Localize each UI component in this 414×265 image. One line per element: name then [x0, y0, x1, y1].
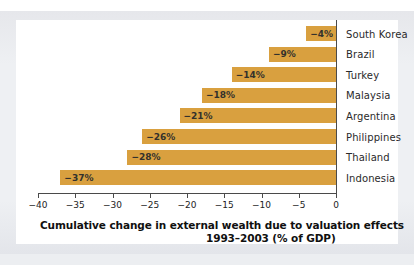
x-axis-tick-label: −15 — [215, 200, 234, 210]
x-axis-tick-label: −30 — [103, 200, 122, 210]
bar-chart-plot-area: −4%South Korea−9%Brazil−14%Turkey−18%Mal… — [16, 20, 398, 196]
bar-row: −14%Turkey — [16, 67, 398, 82]
x-axis-tick — [224, 194, 225, 198]
x-axis-tick-label: −5 — [292, 200, 305, 210]
bar-brazil: −9% — [269, 47, 336, 62]
bar-row: −26%Philippines — [16, 129, 398, 144]
x-axis-tick — [187, 194, 188, 198]
category-label-thailand: Thailand — [346, 152, 390, 163]
y-axis-zero-line — [336, 20, 337, 193]
bar-row: −9%Brazil — [16, 47, 398, 62]
x-axis-tick — [336, 194, 337, 198]
x-axis-tick — [299, 194, 300, 198]
chart-caption-line2: 1993–2003 (% of GDP) — [206, 232, 336, 244]
x-axis-tick — [75, 194, 76, 198]
x-axis-tick-label: −10 — [252, 200, 271, 210]
chart-page: −4%South Korea−9%Brazil−14%Turkey−18%Mal… — [0, 0, 414, 265]
bar-indonesia: −37% — [60, 170, 336, 185]
x-axis-tick-label: 0 — [333, 200, 339, 210]
x-axis-tick-label: −20 — [178, 200, 197, 210]
bar-value-label: −28% — [131, 152, 160, 162]
bar-value-label: −26% — [146, 132, 175, 142]
bar-argentina: −21% — [180, 108, 336, 123]
bar-malaysia: −18% — [202, 88, 336, 103]
x-axis-tick — [262, 194, 263, 198]
bar-thailand: −28% — [127, 150, 336, 165]
x-axis-tick-label: −25 — [140, 200, 159, 210]
category-label-malaysia: Malaysia — [346, 90, 391, 101]
scan-bottom-band — [0, 254, 414, 265]
bar-row: −4%South Korea — [16, 26, 398, 41]
bar-value-label: −18% — [206, 90, 235, 100]
category-label-philippines: Philippines — [346, 131, 401, 142]
bar-turkey: −14% — [232, 67, 336, 82]
x-axis-tick — [150, 194, 151, 198]
bar-row: −37%Indonesia — [16, 170, 398, 185]
x-axis-tick-label: −35 — [66, 200, 85, 210]
bar-philippines: −26% — [142, 129, 336, 144]
category-label-turkey: Turkey — [346, 69, 379, 80]
chart-caption-line1: Cumulative change in external wealth due… — [40, 219, 404, 231]
bar-value-label: −37% — [64, 173, 93, 183]
bar-row: −28%Thailand — [16, 150, 398, 165]
x-axis-tick — [38, 194, 39, 198]
bar-value-label: −9% — [273, 49, 296, 59]
bar-row: −21%Argentina — [16, 108, 398, 123]
category-label-argentina: Argentina — [346, 110, 396, 121]
bar-row: −18%Malaysia — [16, 88, 398, 103]
bar-value-label: −4% — [310, 29, 333, 39]
category-label-brazil: Brazil — [346, 49, 375, 60]
category-label-south-korea: South Korea — [346, 28, 408, 39]
bar-value-label: −21% — [184, 111, 213, 121]
bar-south-korea: −4% — [306, 26, 336, 41]
x-axis-tick — [113, 194, 114, 198]
bar-value-label: −14% — [236, 70, 265, 80]
x-axis-tick-label: −40 — [29, 200, 48, 210]
category-label-indonesia: Indonesia — [346, 172, 395, 183]
chart-card: −4%South Korea−9%Brazil−14%Turkey−18%Mal… — [16, 20, 398, 244]
page-top-cropped-sliver — [0, 0, 414, 11]
